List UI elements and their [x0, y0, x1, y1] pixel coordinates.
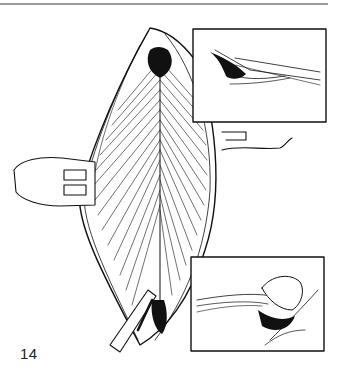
left-hand-retractor	[14, 158, 95, 207]
right-retractors	[222, 132, 292, 150]
surgical-illustration	[0, 0, 343, 379]
figure-number: 14	[20, 345, 38, 362]
inset-top	[193, 29, 326, 122]
inset-bottom	[191, 257, 324, 351]
